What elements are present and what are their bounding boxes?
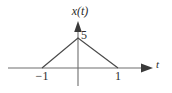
x-tick-label-positive-one: 1 (110, 70, 126, 82)
y-axis-label: x(t) (62, 5, 98, 17)
x-axis-arrowhead-icon (141, 64, 153, 73)
signal-plot-figure: x(t) t 5 −1 1 (0, 0, 172, 93)
signal-waveform-triangle (42, 38, 118, 68)
peak-amplitude-label: 5 (81, 29, 87, 41)
x-axis-label: t (156, 59, 159, 70)
x-tick-label-negative-one: −1 (30, 70, 54, 82)
